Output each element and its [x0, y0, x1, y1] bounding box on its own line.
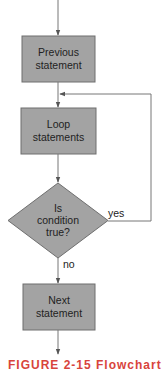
previous-line2: statement — [35, 59, 81, 71]
loop-statements-box: Loop statements — [21, 108, 96, 154]
previous-line1: Previous — [38, 46, 79, 58]
loop-line1: Loop — [47, 118, 71, 130]
next-statement-box: Next statement — [23, 284, 95, 330]
condition-diamond: Is condition true? — [8, 183, 108, 258]
loop-line2: statements — [33, 131, 84, 143]
figure-caption: FIGURE 2-15 Flowchart — [8, 358, 162, 372]
no-label: no — [63, 258, 75, 270]
condition-line3: true? — [46, 226, 70, 238]
condition-line1: Is — [54, 202, 62, 214]
previous-statement-box: Previous statement — [22, 36, 95, 82]
next-line1: Next — [48, 294, 70, 306]
condition-line2: condition — [37, 214, 79, 226]
yes-label: yes — [108, 207, 124, 219]
next-line2: statement — [36, 307, 82, 319]
